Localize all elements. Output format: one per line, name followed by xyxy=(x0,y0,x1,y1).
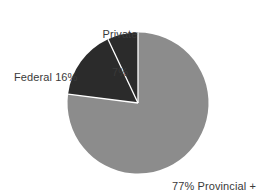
pie-label-provincial-line1: 77% Provincial + xyxy=(150,180,278,192)
pie-chart-figure: Private 7% Federal 16% 77% Provincial + … xyxy=(0,0,280,192)
pie-label-federal: Federal 16% xyxy=(14,46,77,109)
pie-label-provincial-territorial: 77% Provincial + Territorial xyxy=(150,155,278,192)
pie-label-private-line1: Private xyxy=(0,28,240,41)
pie-label-federal-line1: Federal 16% xyxy=(14,71,77,84)
